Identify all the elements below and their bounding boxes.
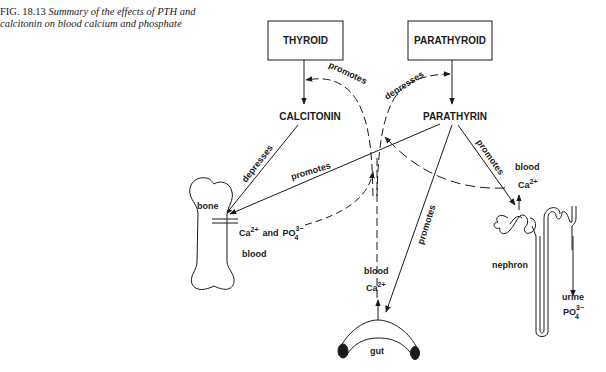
urine-label: urine xyxy=(562,292,584,302)
parathyrin-label: PARATHYRIN xyxy=(423,111,487,122)
promotes-top-label: promotes xyxy=(327,60,368,86)
kidney-ca-label: Ca2+ xyxy=(518,178,538,190)
parathyrin-to-kidney-arrow xyxy=(458,125,515,205)
bone-ions-to-blood-curve xyxy=(305,172,373,225)
thyroid-label: THYROID xyxy=(283,35,328,46)
gut-blood-label: blood xyxy=(364,266,389,276)
kidney-blood-label: blood xyxy=(515,162,540,172)
promotes-gut-label: promotes xyxy=(415,204,437,246)
parathyroid-label: PARATHYROID xyxy=(414,35,486,46)
parathyrin-to-bone-arrow xyxy=(230,124,440,214)
diagram-canvas: THYROID PARATHYROID CALCITONIN PARATHYRI… xyxy=(0,0,606,372)
gut-illustration: gut xyxy=(338,320,420,360)
parathyrin-to-gut-arrow xyxy=(386,125,452,312)
parathyroid-box: PARATHYROID xyxy=(408,21,492,60)
depresses-top-label: depresses xyxy=(383,69,426,102)
gut-label: gut xyxy=(370,346,384,356)
urine-po-label: PO3−4 xyxy=(563,304,584,320)
gut-ca-label: Ca2+ xyxy=(366,281,386,293)
promotes-feedback-curve xyxy=(306,79,373,196)
bone-label: bone xyxy=(197,201,219,211)
promotes-bone-label: promotes xyxy=(290,160,332,182)
bone-illustration: bone xyxy=(190,178,238,290)
thyroid-box: THYROID xyxy=(268,21,343,60)
calcitonin-label: CALCITONIN xyxy=(279,111,340,122)
bone-blood-label: blood xyxy=(242,249,267,259)
bone-ions-label: Ca2+andPO3−4 xyxy=(239,225,304,241)
nephron-label: nephron xyxy=(492,260,528,270)
depresses-bone-label: depresses xyxy=(240,143,275,184)
